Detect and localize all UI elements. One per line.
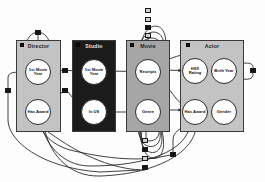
entity-anchor-dot-studio: [76, 43, 80, 47]
diagram-canvas: Director Studio Movie Actor 1st Movie Ye…: [0, 0, 265, 182]
aggregator-marker-movie-top-3[interactable]: [145, 25, 151, 30]
aggregator-marker-movie-top-2[interactable]: [145, 17, 151, 22]
aggregator-marker-movie-bottom-4[interactable]: [142, 165, 148, 170]
attribute-label: Birth Year: [214, 69, 233, 73]
attribute-node-actor-has-award[interactable]: Has Award: [182, 99, 208, 125]
aggregator-marker-director-studio-upper[interactable]: [62, 68, 68, 73]
entity-anchor-dot-movie: [130, 43, 134, 47]
attribute-node-studio-first-movie-year[interactable]: 1st Movie Year: [81, 59, 107, 85]
attribute-label: Has Award: [185, 110, 206, 114]
entity-anchor-dot-director: [20, 43, 24, 47]
attribute-node-movie-receipts[interactable]: Receipts: [135, 59, 161, 85]
attribute-node-director-first-movie-year[interactable]: 1st Movie Year: [25, 59, 51, 85]
attribute-node-director-has-award[interactable]: Has Award: [25, 99, 51, 125]
aggregator-marker-director-studio-lower[interactable]: [62, 88, 68, 93]
aggregator-marker-movie-top-4[interactable]: [145, 33, 151, 38]
aggregator-marker-actor-right-loop[interactable]: [250, 68, 256, 73]
aggregator-marker-movie-bottom-1[interactable]: [142, 138, 148, 143]
aggregator-marker-left-edge[interactable]: [5, 88, 11, 93]
attribute-label: Genre: [142, 110, 154, 114]
attribute-label: Has Award: [28, 110, 49, 114]
attribute-node-studio-in-us[interactable]: In US: [81, 99, 107, 125]
attribute-label: 1st Movie Year: [27, 68, 49, 77]
aggregator-marker-movie-bottom-3[interactable]: [142, 156, 148, 161]
attribute-label: Receipts: [139, 70, 156, 74]
attribute-label: HSX Rating: [184, 67, 206, 76]
entity-anchor-dot-actor: [186, 43, 190, 47]
aggregator-marker-movie-top-1[interactable]: [145, 8, 151, 13]
attribute-label: In US: [89, 110, 99, 114]
entity-title-actor: Actor: [181, 43, 243, 49]
attribute-node-actor-hsx-rating[interactable]: HSX Rating: [182, 58, 208, 84]
attribute-label: Gender: [217, 110, 231, 114]
aggregator-marker-bottom-right[interactable]: [170, 152, 176, 157]
attribute-node-actor-gender[interactable]: Gender: [211, 99, 237, 125]
aggregator-marker-movie-bottom-2[interactable]: [142, 147, 148, 152]
attribute-node-actor-birth-year[interactable]: Birth Year: [211, 58, 237, 84]
aggregator-marker-director-loop[interactable]: [35, 30, 41, 35]
attribute-node-movie-genre[interactable]: Genre: [135, 99, 161, 125]
attribute-label: 1st Movie Year: [83, 68, 105, 77]
